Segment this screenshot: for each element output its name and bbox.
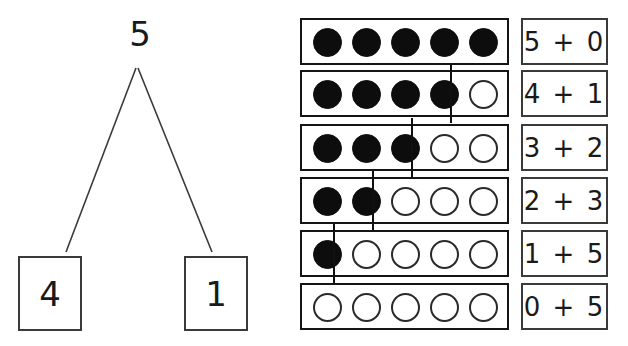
filled-dot[interactable]: [391, 134, 420, 163]
expression-text: 2 + 3: [524, 186, 605, 216]
five-frame-rows: 5 + 04 + 13 + 22 + 31 + 50 + 5: [300, 0, 628, 346]
expression-box[interactable]: 4 + 1: [521, 70, 608, 117]
filled-dot[interactable]: [469, 28, 498, 57]
expression-box[interactable]: 0 + 5: [521, 283, 608, 330]
empty-dot[interactable]: [391, 240, 420, 269]
empty-dot[interactable]: [430, 293, 459, 322]
bond-branch-right: [138, 68, 212, 252]
empty-dot[interactable]: [469, 134, 498, 163]
filled-dot[interactable]: [391, 80, 420, 109]
filled-dot[interactable]: [430, 80, 459, 109]
empty-dot[interactable]: [430, 240, 459, 269]
bond-part-right-value: 1: [205, 274, 227, 314]
filled-dot[interactable]: [352, 187, 381, 216]
five-frame-box[interactable]: [300, 124, 509, 171]
empty-dot[interactable]: [469, 240, 498, 269]
expression-text: 1 + 5: [524, 239, 605, 269]
number-bond-diagram: 5 4 1: [0, 0, 290, 346]
filled-dot[interactable]: [313, 80, 342, 109]
bond-part-right-box[interactable]: 1: [184, 256, 248, 331]
frame-row: 1 + 5: [300, 230, 628, 277]
filled-dot[interactable]: [391, 28, 420, 57]
filled-dot[interactable]: [352, 80, 381, 109]
expression-box[interactable]: 5 + 0: [521, 18, 608, 65]
partition-divider-line: [372, 171, 374, 230]
worksheet-canvas: 5 4 1 5 + 04 + 13 + 22 + 31 + 50 + 5: [0, 0, 628, 346]
five-frame-box[interactable]: [300, 230, 509, 277]
five-frame-box[interactable]: [300, 70, 509, 117]
empty-dot[interactable]: [352, 293, 381, 322]
empty-dot[interactable]: [391, 293, 420, 322]
empty-dot[interactable]: [391, 187, 420, 216]
empty-dot[interactable]: [469, 187, 498, 216]
partition-divider-line: [411, 118, 413, 177]
bond-part-left-box[interactable]: 4: [18, 256, 82, 331]
expression-text: 5 + 0: [524, 27, 605, 57]
expression-text: 3 + 2: [524, 133, 605, 163]
filled-dot[interactable]: [352, 134, 381, 163]
filled-dot[interactable]: [313, 28, 342, 57]
partition-divider-line: [333, 224, 335, 283]
expression-text: 0 + 5: [524, 292, 605, 322]
expression-box[interactable]: 1 + 5: [521, 230, 608, 277]
filled-dot[interactable]: [313, 187, 342, 216]
bond-branch-left: [66, 68, 136, 252]
filled-dot[interactable]: [352, 28, 381, 57]
empty-dot[interactable]: [313, 293, 342, 322]
five-frame-box[interactable]: [300, 177, 509, 224]
frame-row: 2 + 3: [300, 177, 628, 224]
expression-text: 4 + 1: [524, 79, 605, 109]
frame-row: 0 + 5: [300, 283, 628, 330]
expression-box[interactable]: 3 + 2: [521, 124, 608, 171]
frame-row: 4 + 1: [300, 70, 628, 117]
filled-dot[interactable]: [430, 28, 459, 57]
empty-dot[interactable]: [430, 187, 459, 216]
bond-total-value: 5: [110, 14, 170, 54]
filled-dot[interactable]: [313, 240, 342, 269]
empty-dot[interactable]: [469, 80, 498, 109]
empty-dot[interactable]: [469, 293, 498, 322]
expression-box[interactable]: 2 + 3: [521, 177, 608, 224]
filled-dot[interactable]: [313, 134, 342, 163]
frame-row: 3 + 2: [300, 124, 628, 171]
five-frame-box[interactable]: [300, 283, 509, 330]
empty-dot[interactable]: [352, 240, 381, 269]
frame-row: 5 + 0: [300, 18, 628, 65]
partition-divider-line: [450, 64, 452, 123]
five-frame-box[interactable]: [300, 18, 509, 65]
bond-part-left-value: 4: [39, 274, 61, 314]
empty-dot[interactable]: [430, 134, 459, 163]
